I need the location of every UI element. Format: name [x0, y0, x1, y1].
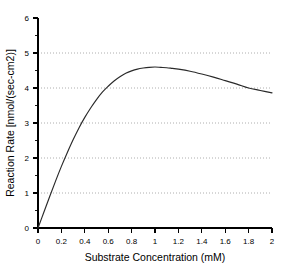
y-tick-label-5: 5	[25, 49, 30, 58]
x-axis: 0 0.2 0.4 0.6 0.8 1 1.2 1.4 1.6 1.8 2	[36, 228, 275, 246]
reaction-rate-plot: 0 1 2 3 4 5 6 0 0.2 0.4 0.6 0.8	[0, 0, 286, 272]
y-tick-label-0: 0	[25, 224, 30, 233]
x-tick-label-1-8: 1.8	[243, 237, 255, 246]
gridlines	[38, 53, 272, 193]
x-tick-label-1-2: 1.2	[173, 237, 185, 246]
y-tick-label-3: 3	[25, 119, 30, 128]
x-tick-label-0-6: 0.6	[103, 237, 115, 246]
y-tick-label-2: 2	[25, 154, 30, 163]
chart-figure: 0 1 2 3 4 5 6 0 0.2 0.4 0.6 0.8	[0, 0, 286, 272]
x-tick-label-0: 0	[36, 237, 41, 246]
x-tick-label-2: 2	[270, 237, 275, 246]
x-tick-label-0-2: 0.2	[56, 237, 68, 246]
x-tick-label-1-4: 1.4	[196, 237, 208, 246]
x-tick-label-0-4: 0.4	[79, 237, 91, 246]
y-tick-label-6: 6	[25, 14, 30, 23]
y-axis: 0 1 2 3 4 5 6	[25, 14, 38, 233]
x-axis-title: Substrate Concentration (mM)	[85, 251, 226, 263]
y-tick-label-4: 4	[25, 84, 30, 93]
y-tick-label-1: 1	[25, 189, 30, 198]
x-tick-label-1: 1	[153, 237, 158, 246]
y-axis-title: Reaction Rate [nmol/(sec-cm2)]	[4, 49, 16, 197]
x-tick-label-1-6: 1.6	[220, 237, 232, 246]
x-tick-label-0-8: 0.8	[126, 237, 138, 246]
reaction-rate-curve	[38, 67, 272, 228]
